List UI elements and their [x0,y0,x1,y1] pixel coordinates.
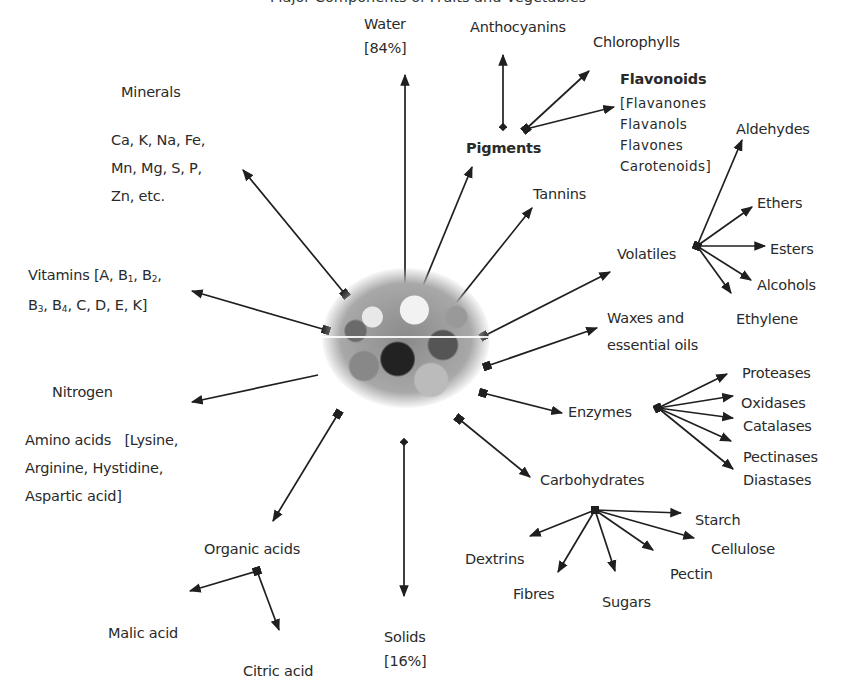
minerals-line: Zn, etc. [111,182,205,210]
label-oxidases: Oxidases [741,391,806,415]
arrow-to-enzymes [483,393,562,413]
arrow-to-malic-acid [190,571,257,591]
label-carbohydrates: Carbohydrates [540,468,644,492]
arrow-to-ethylene [697,246,731,293]
label-sugars: Sugars [602,590,651,614]
arrow-to-pectin [595,510,653,550]
amino-line: Arginine, Hystidine, [25,454,178,482]
label-ethers: Ethers [757,191,802,215]
flavonoid-item: [Flavanones [620,93,711,114]
water-text: Water [364,12,407,36]
flavonoid-item: Flavones [620,135,711,156]
solids-percent: [16%] [384,649,427,673]
arrow-to-dextrins [530,510,595,536]
label-solids: Solids [16%] [384,625,427,673]
label-starch: Starch [695,508,740,532]
label-ethylene: Ethylene [736,307,798,331]
amino-line: Aspartic acid] [25,482,178,510]
arrow-to-starch [595,510,681,513]
water-percent: [84%] [364,36,407,60]
label-organic-acids: Organic acids [204,537,300,561]
label-pectin: Pectin [670,562,713,586]
arrow-to-fibres [558,510,595,572]
label-anthocyanins: Anthocyanins [470,15,566,39]
label-volatiles: Volatiles [617,242,676,266]
label-chlorophylls: Chlorophylls [593,30,680,54]
image-artifact-line [322,336,490,338]
arrow-to-citric-acid [257,571,279,630]
label-flavonoids-list: [Flavanones Flavanols Flavones Carotenoi… [620,93,711,177]
arrow-to-organic-acids [273,414,338,521]
composition-diagram: Major Components of Fruits and Vegetable… [0,0,851,688]
label-alcohols: Alcohols [757,273,816,297]
fruits-and-vegetables-image [322,268,490,408]
label-minerals-list: Ca, K, Na, Fe, Mn, Mg, S, P, Zn, etc. [111,126,205,210]
flavonoid-item: Carotenoids] [620,156,711,177]
label-waxes: Waxes and essential oils [607,305,698,359]
label-citric-acid: Citric acid [243,659,313,683]
label-pectinases: Pectinases [743,445,818,469]
label-enzymes: Enzymes [568,400,632,424]
label-vitamins: Vitamins [A, B1, B2, B3, B4, C, D, E, K] [28,262,162,322]
label-amino-acids: Amino acids [Lysine, Arginine, Hystidine… [25,426,178,510]
label-cellulose: Cellulose [711,537,775,561]
waxes-line: Waxes and [607,305,698,332]
arrow-to-cellulose [595,510,694,538]
flavonoid-item: Flavanols [620,114,711,135]
label-water: Water [84%] [364,12,407,60]
arrow-to-carbohydrates [459,419,530,477]
label-flavonoids: Flavonoids [620,67,706,91]
label-diastases: Diastases [743,468,811,492]
label-aldehydes: Aldehydes [736,117,810,141]
vitamins-line-1: Vitamins [A, B1, B2, [28,262,162,292]
arrow-to-vitamins [192,291,326,330]
label-tannins: Tannins [533,182,586,206]
arrow-to-alcohols [697,246,751,280]
label-proteases: Proteases [742,361,811,385]
arrow-to-volatiles [484,272,610,336]
label-pigments: Pigments [466,136,541,160]
solids-text: Solids [384,625,427,649]
label-esters: Esters [770,237,814,261]
label-dextrins: Dextrins [465,547,524,571]
label-malic-acid: Malic acid [108,621,178,645]
arrow-to-sugars [595,510,615,571]
minerals-line: Mn, Mg, S, P, [111,154,205,182]
label-minerals: Minerals [121,80,180,104]
arrow-to-minerals [243,170,345,294]
minerals-line: Ca, K, Na, Fe, [111,126,205,154]
arrow-to-waxes-and-essential-oils [487,328,597,366]
arrow-to-nitrogen [192,375,318,402]
waxes-line: essential oils [607,332,698,359]
label-catalases: Catalases [743,414,812,438]
amino-line: Amino acids [Lysine, [25,426,178,454]
label-fibres: Fibres [513,582,554,606]
label-nitrogen: Nitrogen [52,380,113,404]
vitamins-line-2: B3, B4, C, D, E, K] [28,292,162,322]
